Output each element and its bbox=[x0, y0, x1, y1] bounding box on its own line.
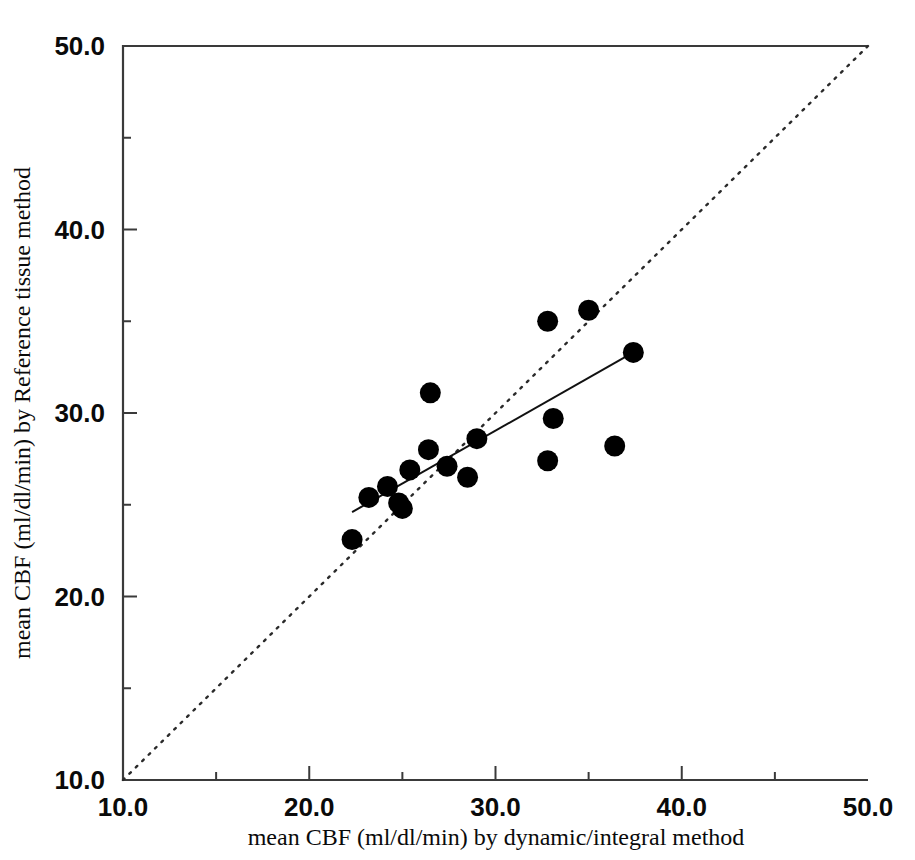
data-point bbox=[623, 342, 644, 363]
data-point bbox=[578, 300, 599, 321]
data-point bbox=[537, 311, 558, 332]
data-point bbox=[392, 498, 413, 519]
data-point bbox=[543, 408, 564, 429]
x-axis-ticks bbox=[216, 766, 775, 780]
y-tick-label: 10.0 bbox=[54, 765, 105, 795]
y-tick-label: 40.0 bbox=[54, 215, 105, 245]
data-point bbox=[358, 487, 379, 508]
plot-canvas: 10.020.030.040.050.0 10.020.030.040.050.… bbox=[0, 0, 915, 860]
y-axis-ticks bbox=[123, 46, 137, 688]
x-axis-tick-labels: 10.020.030.040.050.0 bbox=[98, 792, 894, 822]
data-point bbox=[537, 450, 558, 471]
x-tick-label: 30.0 bbox=[470, 792, 521, 822]
data-point bbox=[437, 456, 458, 477]
x-tick-label: 10.0 bbox=[98, 792, 149, 822]
y-tick-label: 50.0 bbox=[54, 31, 105, 61]
x-tick-label: 40.0 bbox=[656, 792, 707, 822]
data-point bbox=[604, 436, 625, 457]
x-axis-title: mean CBF (ml/dl/min) by dynamic/integral… bbox=[248, 824, 745, 850]
data-point bbox=[418, 439, 439, 460]
x-tick-label: 20.0 bbox=[284, 792, 335, 822]
scatter-plot-figure: 10.020.030.040.050.0 10.020.030.040.050.… bbox=[0, 0, 915, 860]
data-points-layer bbox=[342, 300, 644, 550]
data-point bbox=[420, 382, 441, 403]
identity-line bbox=[123, 46, 868, 780]
x-tick-label: 50.0 bbox=[843, 792, 894, 822]
data-point bbox=[457, 467, 478, 488]
data-point bbox=[399, 459, 420, 480]
y-tick-label: 30.0 bbox=[54, 398, 105, 428]
y-axis-title: mean CBF (ml/dl/min) by Reference tissue… bbox=[9, 167, 35, 659]
y-axis-tick-labels: 10.020.030.040.050.0 bbox=[54, 31, 105, 795]
data-point bbox=[466, 428, 487, 449]
y-tick-label: 20.0 bbox=[54, 582, 105, 612]
data-point bbox=[342, 529, 363, 550]
